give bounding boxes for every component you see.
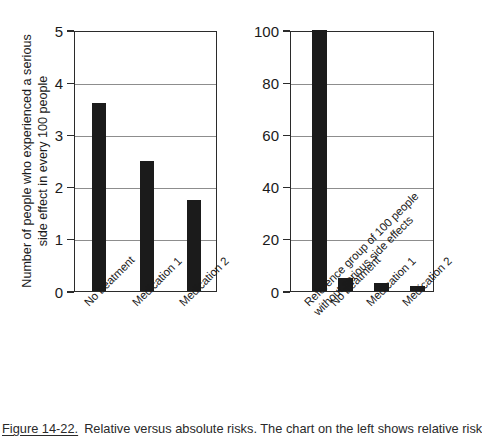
- y-axis-tick: [67, 187, 74, 188]
- y-axis-tick-label: 4: [51, 76, 63, 91]
- y-axis-tick: [283, 187, 290, 188]
- figure-caption: Figure 14-22.Relative versus absolute ri…: [2, 421, 457, 437]
- y-axis-tick-label: 0: [249, 285, 279, 300]
- y-axis-tick-label: 20: [249, 232, 279, 247]
- y-axis-tick-label: 100: [249, 24, 279, 39]
- left-chart-plot-area: [74, 31, 217, 292]
- y-axis-tick: [67, 135, 74, 136]
- bar: [92, 103, 106, 291]
- right-chart-panel: 020406080100Reference group of 100 peopl…: [230, 0, 453, 405]
- y-axis-tick: [67, 30, 74, 31]
- y-axis-tick: [67, 239, 74, 240]
- y-axis-tick: [283, 83, 290, 84]
- y-axis-tick: [67, 291, 74, 292]
- y-axis-tick-label: 60: [249, 128, 279, 143]
- y-axis-tick: [283, 135, 290, 136]
- bar: [312, 30, 327, 291]
- y-axis-tick: [67, 83, 74, 84]
- y-axis-tick-label: 2: [51, 180, 63, 195]
- y-axis-tick-label: 80: [249, 76, 279, 91]
- figure-caption-text: Relative versus absolute risks. The char…: [84, 421, 482, 436]
- y-axis-tick: [283, 239, 290, 240]
- y-axis-tick-label: 5: [51, 24, 63, 39]
- left-chart-panel: Number of people who experienced a serio…: [0, 0, 230, 405]
- y-axis-tick-label: 0: [51, 285, 63, 300]
- y-axis-tick-label: 40: [249, 180, 279, 195]
- figure-number: Figure 14-22.: [2, 421, 78, 436]
- y-axis-tick-label: 3: [51, 128, 63, 143]
- bar: [140, 161, 154, 292]
- gridline: [75, 84, 216, 85]
- y-axis-tick: [283, 291, 290, 292]
- y-axis-tick-label: 1: [51, 232, 63, 247]
- left-chart-y-axis-title: Number of people who experienced a serio…: [20, 30, 51, 292]
- y-axis-tick: [283, 30, 290, 31]
